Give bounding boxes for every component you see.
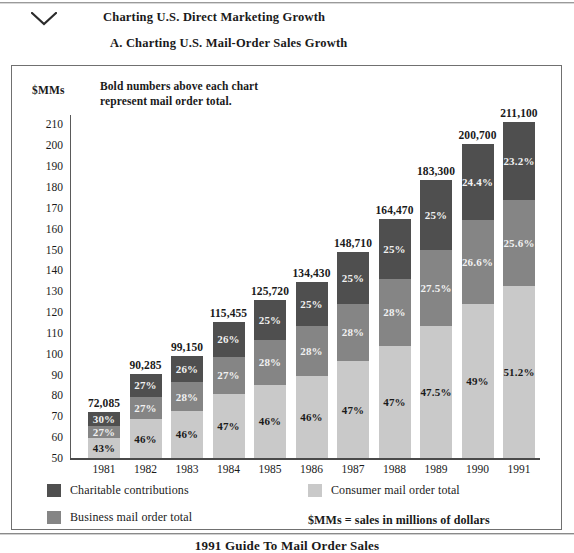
- x-axis-tick-label: 1988: [383, 463, 406, 475]
- bar-segment-charitable-contributions[interactable]: 26%: [171, 356, 203, 383]
- bar-segment-percent-label: 23.2%: [503, 155, 534, 167]
- bar-segment-business-mail-order-total[interactable]: 27%: [130, 397, 162, 420]
- bar-segment-percent-label: 27%: [134, 402, 157, 414]
- stacked-bar[interactable]: 115,45526%27%47%: [213, 322, 245, 458]
- stacked-bar[interactable]: 148,71025%28%47%: [337, 252, 369, 458]
- bar-segment-charitable-contributions[interactable]: 25%: [420, 180, 452, 249]
- bar-segment-percent-label: 28%: [342, 326, 365, 338]
- bar-segment-percent-label: 46%: [259, 415, 282, 427]
- bar-segment-percent-label: 28%: [300, 345, 323, 357]
- bar-group: 90,28527%27%46%1982: [130, 115, 162, 459]
- legend-swatch-consumer-mail-order-total: [308, 484, 322, 497]
- y-axis-tick-label: 200: [46, 141, 63, 153]
- y-axis-tick-label: 120: [46, 307, 63, 319]
- bar-segment-business-mail-order-total[interactable]: 28%: [171, 382, 203, 411]
- bar-segment-consumer-mail-order-total[interactable]: 46%: [171, 411, 203, 458]
- bar-segment-consumer-mail-order-total[interactable]: 47%: [337, 361, 369, 458]
- bar-segment-consumer-mail-order-total[interactable]: 47.5%: [420, 326, 452, 458]
- bar-segment-charitable-contributions[interactable]: 25%: [296, 282, 328, 326]
- bar-segment-percent-label: 26%: [176, 363, 199, 375]
- bar-total-label: 200,700: [458, 129, 496, 141]
- x-axis-tick-label: 1986: [300, 463, 323, 475]
- bar-segment-consumer-mail-order-total[interactable]: 46%: [296, 376, 328, 458]
- bar-segment-consumer-mail-order-total[interactable]: 47%: [213, 394, 245, 458]
- bar-segment-percent-label: 26.6%: [462, 256, 493, 268]
- y-axis-tick-label: 100: [46, 349, 63, 361]
- bar-segment-business-mail-order-total[interactable]: 28%: [254, 340, 286, 385]
- bar-segment-percent-label: 46%: [176, 428, 199, 440]
- y-axis-tick-label: 190: [46, 161, 63, 173]
- footer-title: 1991 Guide To Mail Order Sales: [0, 538, 574, 553]
- bar-segment-business-mail-order-total[interactable]: 27%: [213, 357, 245, 394]
- bar-segment-business-mail-order-total[interactable]: 28%: [337, 304, 369, 362]
- y-axis-tick-label: 130: [46, 286, 63, 298]
- bar-segment-percent-label: 46%: [134, 433, 157, 445]
- bar-segment-percent-label: 24.4%: [462, 176, 493, 188]
- bar-total-label: 134,430: [292, 267, 330, 279]
- bar-segment-percent-label: 25%: [383, 243, 406, 255]
- bar-segment-consumer-mail-order-total[interactable]: 51.2%: [503, 286, 535, 458]
- bar-total-label: 164,470: [375, 204, 413, 216]
- bar-group: 99,15026%28%46%1983: [171, 115, 203, 459]
- bar-segment-charitable-contributions[interactable]: 25%: [379, 219, 411, 279]
- legend-item-consumer-mail-order-total: Consumer mail order total: [308, 483, 460, 498]
- bar-segment-consumer-mail-order-total[interactable]: 46%: [254, 385, 286, 458]
- bar-segment-charitable-contributions[interactable]: 26%: [213, 322, 245, 357]
- stacked-bar[interactable]: 90,28527%27%46%: [130, 374, 162, 458]
- bar-segment-percent-label: 46%: [300, 411, 323, 423]
- bar-segment-business-mail-order-total[interactable]: 28%: [379, 279, 411, 346]
- y-axis-tick-label: 80: [52, 391, 64, 403]
- bar-segment-charitable-contributions[interactable]: 25%: [337, 252, 369, 303]
- bar-group: 134,43025%28%46%1986: [296, 115, 328, 459]
- top-divider: [0, 2, 574, 4]
- stacked-bar[interactable]: 200,70024.4%26.6%49%: [462, 144, 494, 458]
- bar-segment-percent-label: 25.6%: [503, 237, 534, 249]
- x-axis-tick-label: 1983: [176, 463, 199, 475]
- x-axis-tick-label: 1990: [466, 463, 489, 475]
- bar-segment-business-mail-order-total[interactable]: 27%: [88, 426, 120, 438]
- bar-segment-consumer-mail-order-total[interactable]: 46%: [130, 419, 162, 458]
- bar-segment-charitable-contributions[interactable]: 24.4%: [462, 144, 494, 221]
- bar-group: 125,72025%28%46%1985: [254, 115, 286, 459]
- bar-segment-consumer-mail-order-total[interactable]: 43%: [88, 438, 120, 458]
- stacked-bar[interactable]: 72,08530%27%43%: [88, 412, 120, 458]
- y-axis-line: [70, 115, 71, 459]
- bar-segment-charitable-contributions[interactable]: 25%: [254, 300, 286, 340]
- stacked-bar[interactable]: 134,43025%28%46%: [296, 282, 328, 458]
- chart-legend: Charitable contributions Business mail o…: [12, 478, 563, 530]
- legend-label-charitable-contributions: Charitable contributions: [70, 483, 189, 498]
- stacked-bar[interactable]: 211,10023.2%25.6%51.2%: [503, 122, 535, 458]
- bar-segment-percent-label: 25%: [259, 314, 282, 326]
- bar-segment-charitable-contributions[interactable]: 23.2%: [503, 122, 535, 200]
- bar-total-label: 99,150: [171, 341, 203, 353]
- x-axis-tick-label: 1984: [217, 463, 240, 475]
- y-axis-tick-label: 70: [52, 412, 64, 424]
- bar-total-label: 115,455: [210, 307, 247, 319]
- y-axis-tick-label: 90: [52, 370, 64, 382]
- bar-segment-business-mail-order-total[interactable]: 28%: [296, 326, 328, 376]
- chevron-down-icon: [31, 12, 57, 26]
- legend-label-business-mail-order-total: Business mail order total: [70, 510, 192, 525]
- bar-segment-charitable-contributions[interactable]: 27%: [130, 374, 162, 397]
- y-axis-tick-label: 160: [46, 224, 63, 236]
- page-title: Charting U.S. Direct Marketing Growth: [103, 10, 325, 25]
- bar-segment-percent-label: 28%: [259, 356, 282, 368]
- stacked-bar[interactable]: 183,30025%27.5%47.5%: [420, 180, 452, 458]
- legend-item-business-mail-order-total: Business mail order total: [47, 510, 192, 525]
- bar-segment-percent-label: 27.5%: [420, 282, 451, 294]
- stacked-bar[interactable]: 125,72025%28%46%: [254, 300, 286, 458]
- bar-segment-consumer-mail-order-total[interactable]: 47%: [379, 346, 411, 458]
- plot-area: 2102001901801701601501401301201101009080…: [70, 115, 548, 459]
- bar-segment-business-mail-order-total[interactable]: 27.5%: [420, 250, 452, 326]
- bar-segment-percent-label: 49%: [466, 375, 489, 387]
- bar-segment-percent-label: 27%: [134, 379, 157, 391]
- bar-segment-percent-label: 27%: [93, 426, 116, 438]
- bar-total-label: 125,720: [251, 285, 289, 297]
- bar-segment-consumer-mail-order-total[interactable]: 49%: [462, 304, 494, 458]
- stacked-bar[interactable]: 164,47025%28%47%: [379, 219, 411, 458]
- bar-segment-business-mail-order-total[interactable]: 25.6%: [503, 200, 535, 286]
- stacked-bar[interactable]: 99,15026%28%46%: [171, 356, 203, 458]
- bar-segment-charitable-contributions[interactable]: 30%: [88, 412, 120, 426]
- x-axis-tick-label: 1985: [259, 463, 282, 475]
- bar-segment-business-mail-order-total[interactable]: 26.6%: [462, 220, 494, 304]
